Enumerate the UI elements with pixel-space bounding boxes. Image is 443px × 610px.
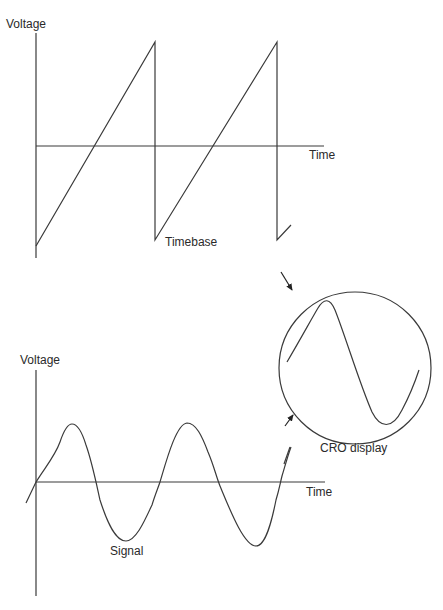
- cro-trace: [287, 301, 419, 425]
- signal-graph: [26, 370, 325, 596]
- cro-screen: [279, 292, 431, 444]
- cro-diagram: [0, 0, 443, 610]
- sine-waveform: [26, 423, 291, 546]
- timebase-y-axis-label: Voltage: [6, 18, 46, 30]
- arrow-tail-segment: [284, 447, 290, 464]
- timebase-x-axis-label: Time: [309, 149, 335, 161]
- timebase-waveform-label: Timebase: [165, 236, 217, 248]
- signal-y-axis-label: Voltage: [20, 354, 60, 366]
- signal-x-axis-label: Time: [306, 486, 332, 498]
- arrow-timebase-to-cro: [281, 272, 292, 290]
- sawtooth-waveform: [36, 42, 291, 246]
- timebase-graph: [36, 33, 324, 258]
- signal-waveform-label: Signal: [110, 545, 143, 557]
- arrow-signal-to-cro: [285, 415, 293, 426]
- cro-display-label: CRO display: [320, 442, 387, 454]
